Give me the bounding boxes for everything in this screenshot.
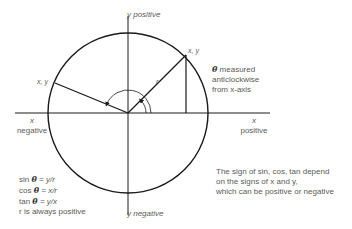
x-positive-var: x <box>236 116 272 126</box>
y-positive-label: y positive <box>127 10 160 20</box>
y-negative-label: y negative <box>127 209 163 219</box>
formula-cos: cos θ = x/r <box>19 185 86 196</box>
formula-fn: sin <box>19 175 31 184</box>
angle-note-line3: from x-axis <box>212 85 259 95</box>
formula-sin: sin θ = y/r <box>19 174 86 185</box>
angle-note-line2: anticlockwise <box>212 75 259 85</box>
sign-note-line2: on the signs of x and y, <box>216 177 334 187</box>
q2-point-label: x, y <box>37 77 48 87</box>
formula-block: sin θ = y/r cos θ = x/r tan θ = y/x r is… <box>19 174 86 217</box>
formula-fn: cos <box>19 186 34 195</box>
formula-rest: = y/x <box>38 197 57 206</box>
formula-fn: tan <box>19 197 32 206</box>
formula-tan: tan θ = y/x <box>19 196 86 207</box>
sign-note: The sign of sin, cos, tan depend on the … <box>216 167 334 197</box>
angle-note-line1: θ measured <box>212 64 259 75</box>
x-positive-word: positive <box>236 126 272 136</box>
q1-point-label: x, y <box>188 46 199 56</box>
x-negative-word: negative <box>14 126 50 136</box>
x-positive-label: x positive <box>236 116 272 136</box>
sign-note-line1: The sign of sin, cos, tan depend <box>216 167 334 177</box>
r-note: r is always positive <box>19 207 86 217</box>
x-negative-label: x negative <box>14 116 50 136</box>
angle-arc-q2 <box>107 90 151 113</box>
x-negative-var: x <box>14 116 50 126</box>
angle-note-text1: measured <box>217 65 255 74</box>
angle-arc-q1 <box>141 100 146 113</box>
radius-q2 <box>55 83 128 113</box>
sign-note-line3: which can be positive or negative <box>216 187 334 197</box>
radius-label: r <box>156 77 158 87</box>
angle-note: θ measured anticlockwise from x-axis <box>212 64 259 95</box>
formula-rest: = y/r <box>37 175 55 184</box>
formula-rest: = x/r <box>39 186 57 195</box>
